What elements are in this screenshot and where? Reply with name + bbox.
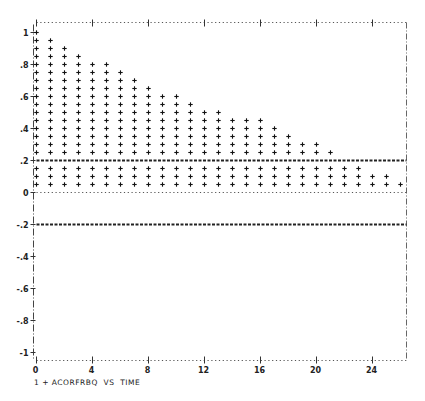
- y-tick-label: 0: [23, 189, 29, 198]
- y-tick-label: -.8: [17, 317, 29, 326]
- plus-marker: [104, 166, 108, 170]
- caption-vs: VS: [104, 378, 115, 387]
- plus-marker: [202, 110, 206, 114]
- x-tick-label: 12: [198, 366, 209, 375]
- caption-variable: ACORFRBQ: [52, 378, 98, 387]
- plus-marker: [104, 78, 108, 82]
- plus-marker: [62, 46, 66, 50]
- plus-marker: [160, 166, 164, 170]
- plus-marker: [174, 102, 178, 106]
- plus-marker: [300, 150, 304, 154]
- plus-marker: [300, 174, 304, 178]
- plus-marker: [286, 142, 290, 146]
- plus-marker: [132, 78, 136, 82]
- plus-marker: [230, 126, 234, 130]
- plus-marker: [104, 86, 108, 90]
- plus-marker: [370, 174, 374, 178]
- plus-marker: [62, 118, 66, 122]
- plus-marker: [314, 142, 318, 146]
- plus-marker: [188, 166, 192, 170]
- plus-marker: [328, 174, 332, 178]
- caption-plus-symbol: +: [42, 378, 49, 387]
- plus-marker: [300, 182, 304, 186]
- plus-marker: [62, 70, 66, 74]
- plus-marker: [90, 94, 94, 98]
- y-tick-label: -.6: [17, 285, 29, 294]
- plus-marker: [216, 174, 220, 178]
- plus-marker: [34, 38, 38, 42]
- plus-marker: [160, 126, 164, 130]
- y-tick-label: 1: [23, 29, 29, 38]
- plus-marker: [34, 150, 38, 154]
- plus-marker: [34, 94, 38, 98]
- plus-marker: [62, 110, 66, 114]
- plus-marker: [76, 86, 80, 90]
- plus-marker: [132, 86, 136, 90]
- caption-x-variable: TIME: [120, 378, 140, 387]
- plus-marker: [76, 70, 80, 74]
- y-tick-label: .4: [20, 125, 29, 134]
- plus-marker: [398, 182, 402, 186]
- plus-marker: [48, 182, 52, 186]
- plus-marker: [328, 150, 332, 154]
- plus-marker: [216, 150, 220, 154]
- plus-marker: [90, 182, 94, 186]
- plus-marker: [216, 134, 220, 138]
- plus-marker: [132, 166, 136, 170]
- plus-marker: [48, 150, 52, 154]
- plus-marker: [62, 166, 66, 170]
- plus-marker: [202, 126, 206, 130]
- plus-marker: [174, 110, 178, 114]
- plus-marker: [160, 150, 164, 154]
- plus-marker: [118, 94, 122, 98]
- plus-marker: [132, 182, 136, 186]
- plus-marker: [272, 166, 276, 170]
- plus-marker: [76, 142, 80, 146]
- plus-marker: [34, 30, 38, 34]
- plus-marker: [90, 110, 94, 114]
- plus-marker: [104, 70, 108, 74]
- plus-marker: [370, 182, 374, 186]
- plus-marker: [188, 110, 192, 114]
- plus-marker: [174, 126, 178, 130]
- plus-marker: [286, 134, 290, 138]
- plus-marker: [76, 118, 80, 122]
- plus-marker: [272, 134, 276, 138]
- plus-marker: [48, 142, 52, 146]
- plus-marker: [132, 94, 136, 98]
- plus-marker: [34, 46, 38, 50]
- plus-marker: [300, 166, 304, 170]
- x-tick-label: 8: [145, 366, 151, 375]
- plus-marker: [258, 166, 262, 170]
- plus-marker: [62, 102, 66, 106]
- y-tick-label: -1: [20, 349, 29, 358]
- plus-marker: [160, 102, 164, 106]
- plus-marker: [34, 134, 38, 138]
- plus-marker: [230, 174, 234, 178]
- plus-marker: [76, 182, 80, 186]
- plus-marker: [48, 134, 52, 138]
- plus-marker: [216, 166, 220, 170]
- plus-marker: [48, 86, 52, 90]
- y-tick-label: -.4: [17, 253, 29, 262]
- plus-marker: [202, 142, 206, 146]
- plus-marker: [62, 174, 66, 178]
- plus-marker: [34, 78, 38, 82]
- plus-marker: [174, 174, 178, 178]
- plus-marker: [62, 78, 66, 82]
- plus-marker: [244, 126, 248, 130]
- plus-marker: [258, 142, 262, 146]
- plus-marker: [342, 166, 346, 170]
- plus-marker: [230, 182, 234, 186]
- plus-marker: [272, 142, 276, 146]
- y-tick-label: .2: [20, 157, 29, 166]
- plus-marker: [272, 182, 276, 186]
- plus-marker: [118, 126, 122, 130]
- plus-marker: [90, 86, 94, 90]
- plus-marker: [146, 174, 150, 178]
- plus-marker: [76, 150, 80, 154]
- plus-marker: [244, 182, 248, 186]
- plus-marker: [244, 134, 248, 138]
- plus-marker: [188, 134, 192, 138]
- plus-marker: [34, 86, 38, 90]
